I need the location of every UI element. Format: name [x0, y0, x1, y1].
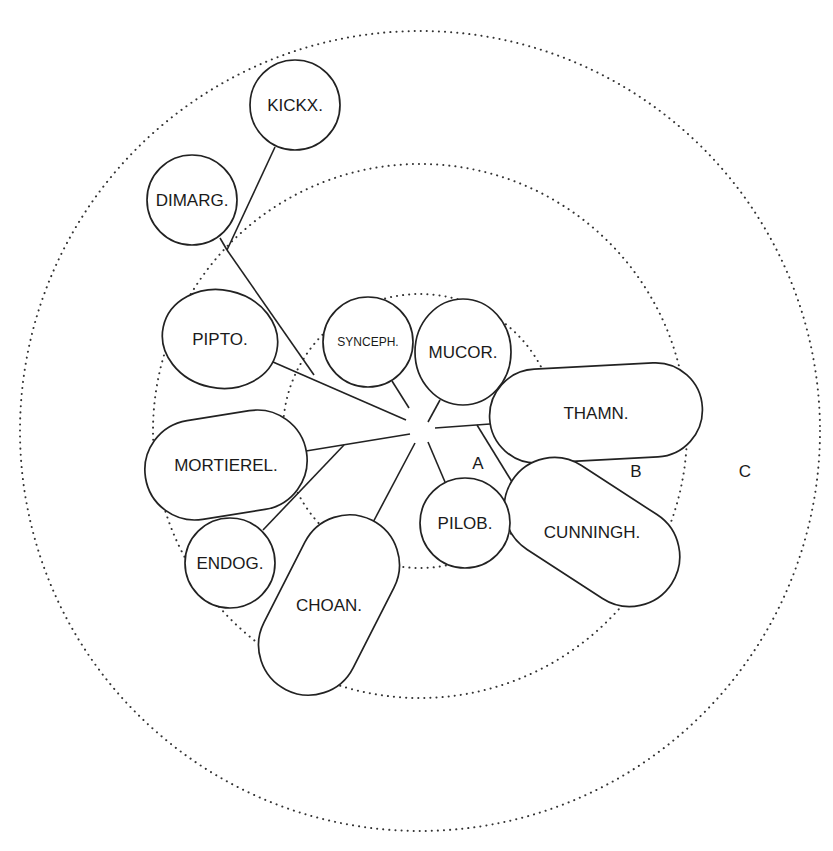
node-pipto: PIPTO.	[153, 279, 287, 399]
node-kickx-label: KICKX.	[267, 96, 323, 115]
node-kickx: KICKX.	[250, 60, 340, 150]
edge-thamn	[435, 424, 490, 428]
edge-choan	[370, 443, 415, 528]
taxon-nodes: KICKX.DIMARG.PIPTO.SYNCEPH.MUCOR.THAMN.C…	[138, 60, 705, 712]
node-thamn-label: THAMN.	[563, 404, 628, 423]
zone-b-label: B	[630, 462, 641, 481]
node-mucor-label: MUCOR.	[429, 343, 498, 362]
node-endog: ENDOG.	[185, 518, 275, 608]
node-thamn: THAMN.	[487, 360, 705, 465]
node-mortierel-label: MORTIEREL.	[174, 456, 278, 475]
zone-c-boundary	[20, 31, 820, 831]
node-pilob: PILOB.	[420, 478, 510, 568]
node-mortierel: MORTIEREL.	[138, 403, 315, 527]
node-mucor: MUCOR.	[415, 299, 511, 405]
node-pilob-label: PILOB.	[438, 514, 493, 533]
zone-a-label: A	[472, 454, 484, 473]
node-synceph: SYNCEPH.	[323, 297, 413, 387]
edge-mortierel	[306, 434, 410, 451]
zone-c-label: C	[739, 462, 751, 481]
node-dimarg: DIMARG.	[147, 155, 237, 245]
taxa-zone-diagram: KICKX.DIMARG.PIPTO.SYNCEPH.MUCOR.THAMN.C…	[0, 0, 833, 851]
node-choan-label: CHOAN.	[296, 596, 362, 615]
edge-dimarg	[220, 238, 227, 250]
node-dimarg-label: DIMARG.	[156, 191, 229, 210]
concentric-zones	[20, 31, 820, 831]
edge-pilob	[428, 442, 445, 482]
node-pipto-label: PIPTO.	[192, 330, 247, 349]
node-cunningh: CUNNINGH.	[485, 438, 699, 625]
node-choan: CHOAN.	[241, 498, 416, 713]
node-endog-label: ENDOG.	[196, 554, 263, 573]
edge-mucor	[428, 400, 440, 422]
node-synceph-label: SYNCEPH.	[337, 335, 398, 349]
edge-synceph	[392, 381, 409, 408]
node-cunningh-label: CUNNINGH.	[544, 523, 640, 542]
